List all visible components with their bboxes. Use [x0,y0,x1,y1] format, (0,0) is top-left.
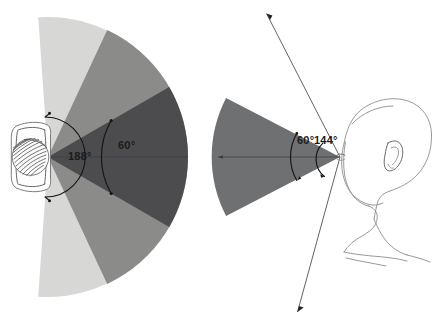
figure-root: 188° 60° [0,0,435,323]
angle-label-60-left: 60° [118,139,135,151]
angle-label-60-right: 60° [297,134,314,146]
angle-label-188: 188° [68,150,92,162]
field-of-view-diagram: 188° 60° [0,0,435,323]
angle-label-144: 144° [314,134,338,146]
eye-icon [11,122,50,191]
arc-60-endpoint-bottom-left [110,192,113,195]
arc-188-endpoint-top [48,112,51,115]
arc-188-endpoint-bottom [48,199,51,202]
arc-60-endpoint-top-left [110,119,113,122]
